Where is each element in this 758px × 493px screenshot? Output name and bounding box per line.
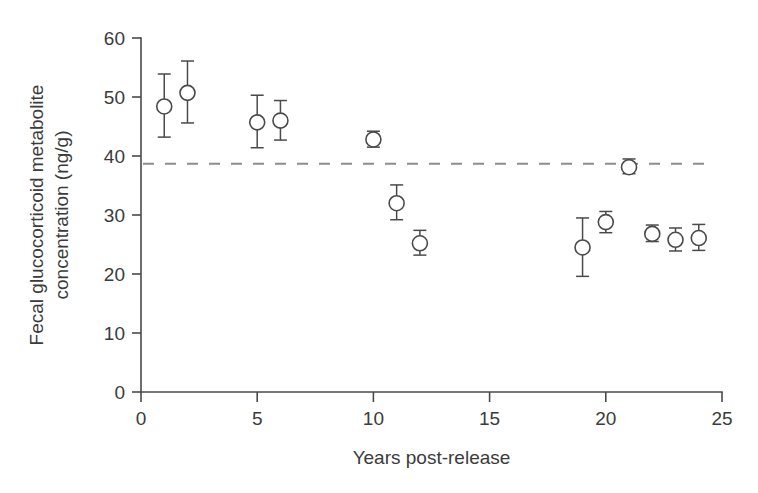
data-marker [389,196,404,211]
figure-container: 01020304050600510152025 1 yr: 48.4 ng/g … [0,0,758,493]
scatter-plot: 01020304050600510152025 1 yr: 48.4 ng/g … [0,0,758,493]
axis-labels-group: Years post-releaseFecal glucocorticoid m… [26,85,510,468]
data-point: 19 yr: 24.5 ng/g (19.6–29.5) [575,218,590,276]
axes-group: 01020304050600510152025 [104,28,733,429]
data-marker [273,113,288,128]
data-point: 11 yr: 32 ng/g (29.2–35.1) [389,185,404,220]
data-point: 1 yr: 48.4 ng/g (43.2–53.9) [157,74,172,137]
x-axis-tick-label: 25 [711,408,732,429]
y-axis-tick-label: 60 [104,28,125,49]
data-marker [668,232,683,247]
data-point: 12 yr: 25.2 ng/g (23.2–27.4) [412,230,427,255]
data-marker [575,240,590,255]
data-point: 6 yr: 46 ng/g (42.7–49.4) [273,101,288,141]
data-marker [366,132,381,147]
data-point: 24 yr: 26.1 ng/g (24–28.4) [691,224,706,250]
y-axis-title-line1: Fecal glucocorticoid metabolite [26,85,47,346]
data-marker [180,85,195,100]
x-axis-tick-label: 10 [363,408,384,429]
data-points-group: 1 yr: 48.4 ng/g (43.2–53.9)2 yr: 50.7 ng… [157,61,707,276]
y-axis-tick-label: 40 [104,146,125,167]
x-axis-tick-label: 0 [136,408,147,429]
y-axis-tick-label: 10 [104,323,125,344]
y-axis-tick-label: 0 [114,382,125,403]
data-point: 22 yr: 26.8 ng/g (25.5–28.3) [645,225,660,242]
x-axis-tick-label: 20 [595,408,616,429]
data-marker [598,215,613,230]
data-point: 5 yr: 45.7 ng/g (41.4–50.3) [250,95,265,148]
data-point: 20 yr: 28.8 ng/g (27–30.6) [598,211,613,232]
data-marker [645,226,660,241]
x-axis-title: Years post-release [353,447,511,468]
y-axis-tick-label: 20 [104,264,125,285]
data-marker [412,236,427,251]
data-marker [691,231,706,246]
x-axis-tick-label: 15 [479,408,500,429]
y-axis-tick-label: 50 [104,87,125,108]
x-axis-tick-label: 5 [252,408,263,429]
data-point: 21 yr: 38.1 ng/g (37–39.5) [622,159,637,175]
y-axis-tick-label: 30 [104,205,125,226]
data-marker [157,99,172,114]
data-point: 10 yr: 42.8 ng/g (41.5–44.2) [366,131,381,147]
data-point: 23 yr: 25.8 ng/g (23.9–27.8) [668,228,683,251]
y-axis-title-line2: concentration (ng/g) [51,131,72,300]
data-point: 2 yr: 50.7 ng/g (45.6–56.1) [180,61,195,123]
data-marker [622,160,637,175]
data-marker [250,115,265,130]
